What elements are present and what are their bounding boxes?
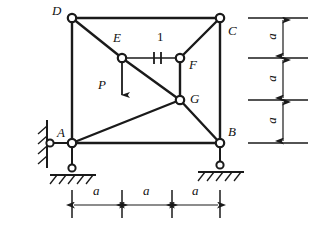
joint-E	[118, 54, 126, 62]
joint-B	[216, 139, 224, 147]
joint-label-F: F	[189, 58, 197, 71]
member-diagonal-AG	[72, 100, 180, 143]
joint-A	[68, 139, 76, 147]
member-label-1: 1	[157, 30, 164, 43]
joint-label-A: A	[57, 126, 65, 139]
joint-label-D: D	[52, 4, 61, 17]
joint-label-C: C	[228, 24, 237, 37]
dimension-label-vertical-1: a	[265, 33, 278, 40]
joint-C	[216, 14, 224, 22]
member-diagonal-EG	[122, 58, 180, 100]
support-pin-under-B	[198, 143, 244, 181]
dimension-label-vertical-3: a	[265, 117, 278, 124]
joint-D	[68, 14, 76, 22]
truss-diagram-figure: D C E F G A B 1 P a a a a a a	[0, 0, 315, 244]
support-pin-under-A	[50, 143, 96, 184]
joint-label-B: B	[228, 125, 236, 138]
load-label-P: P	[98, 78, 106, 91]
joint-label-E: E	[113, 31, 121, 44]
joint-F	[176, 54, 184, 62]
member-diagonal-GB	[180, 100, 220, 143]
joint-label-G: G	[190, 92, 199, 105]
joint-G	[176, 96, 184, 104]
dimension-label-vertical-2: a	[265, 75, 278, 82]
dimension-label-horizontal-2: a	[143, 184, 150, 197]
member-diagonal-FC	[180, 18, 220, 58]
dimension-label-horizontal-3: a	[192, 184, 199, 197]
dimension-label-horizontal-1: a	[93, 184, 100, 197]
